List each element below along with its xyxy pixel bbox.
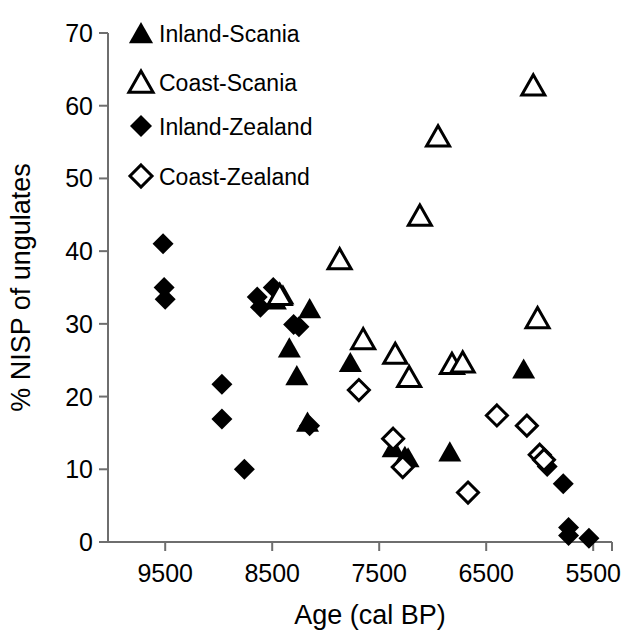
marker-diamond-filled [211,374,232,395]
y-tick-label: 0 [79,528,93,556]
marker-diamond-filled [211,409,232,430]
marker-triangle-open [427,126,450,146]
marker-triangle-open [328,249,351,269]
marker-diamond-filled [553,473,574,494]
legend-item-inland-scania: Inland-Scania [129,21,300,47]
marker-triangle-filled [285,365,308,385]
y-tick-label: 40 [65,237,93,265]
marker-triangle-filled [512,358,535,378]
marker-diamond-open [458,482,479,503]
marker-triangle-open [408,205,431,225]
marker-triangle-filled [298,298,321,318]
marker-triangle-open [522,75,545,95]
series-coast-zealand [348,380,554,504]
marker-diamond-open [348,380,369,401]
marker-diamond-open [516,415,537,436]
marker-triangle-filled [129,22,153,43]
legend-item-inland-zealand: Inland-Zealand [130,114,312,140]
scatter-chart: 95008500750065005500010203040506070 Age … [0,0,639,639]
x-axis-title: Age (cal BP) [294,600,446,630]
marker-diamond-filled [130,115,152,137]
y-tick-label: 60 [65,92,93,120]
y-tick-label: 20 [65,383,93,411]
chart-canvas: 95008500750065005500010203040506070 Age … [0,0,639,639]
y-tick-label: 50 [65,164,93,192]
marker-triangle-open [384,343,407,363]
marker-triangle-open [129,71,153,92]
legend-label: Inland-Scania [159,21,300,47]
x-tick-label: 9500 [137,559,193,587]
marker-triangle-open [526,308,549,328]
marker-triangle-filled [278,337,301,357]
x-tick-label: 7500 [351,559,407,587]
legend: Inland-ScaniaCoast-ScaniaInland-ZealandC… [129,21,313,190]
x-tick-label: 8500 [244,559,300,587]
marker-diamond-open [486,405,507,426]
marker-triangle-filled [438,441,461,461]
marker-diamond-filled [234,459,255,480]
marker-diamond-filled [153,233,174,254]
marker-triangle-open [398,366,421,386]
legend-item-coast-scania: Coast-Scania [129,70,297,96]
y-tick-label: 30 [65,310,93,338]
legend-label: Inland-Zealand [159,114,312,140]
y-axis-title: % NISP of ungulates [6,163,36,412]
data-points-layer [153,75,600,549]
series-inland-zealand [153,233,600,548]
axes-layer: 95008500750065005500010203040506070 [65,19,621,587]
marker-diamond-filled [155,289,176,310]
marker-diamond-filled [578,528,599,549]
x-tick-label: 6500 [458,559,514,587]
y-tick-label: 70 [65,19,93,47]
marker-triangle-open [352,329,375,349]
x-tick-label: 5500 [565,559,621,587]
marker-triangle-filled [339,352,362,372]
legend-item-coast-zealand: Coast-Zealand [130,164,310,190]
marker-diamond-open [383,428,404,449]
legend-label: Coast-Zealand [159,164,310,190]
legend-label: Coast-Scania [159,70,297,96]
marker-diamond-open [130,165,152,187]
y-tick-label: 10 [65,455,93,483]
